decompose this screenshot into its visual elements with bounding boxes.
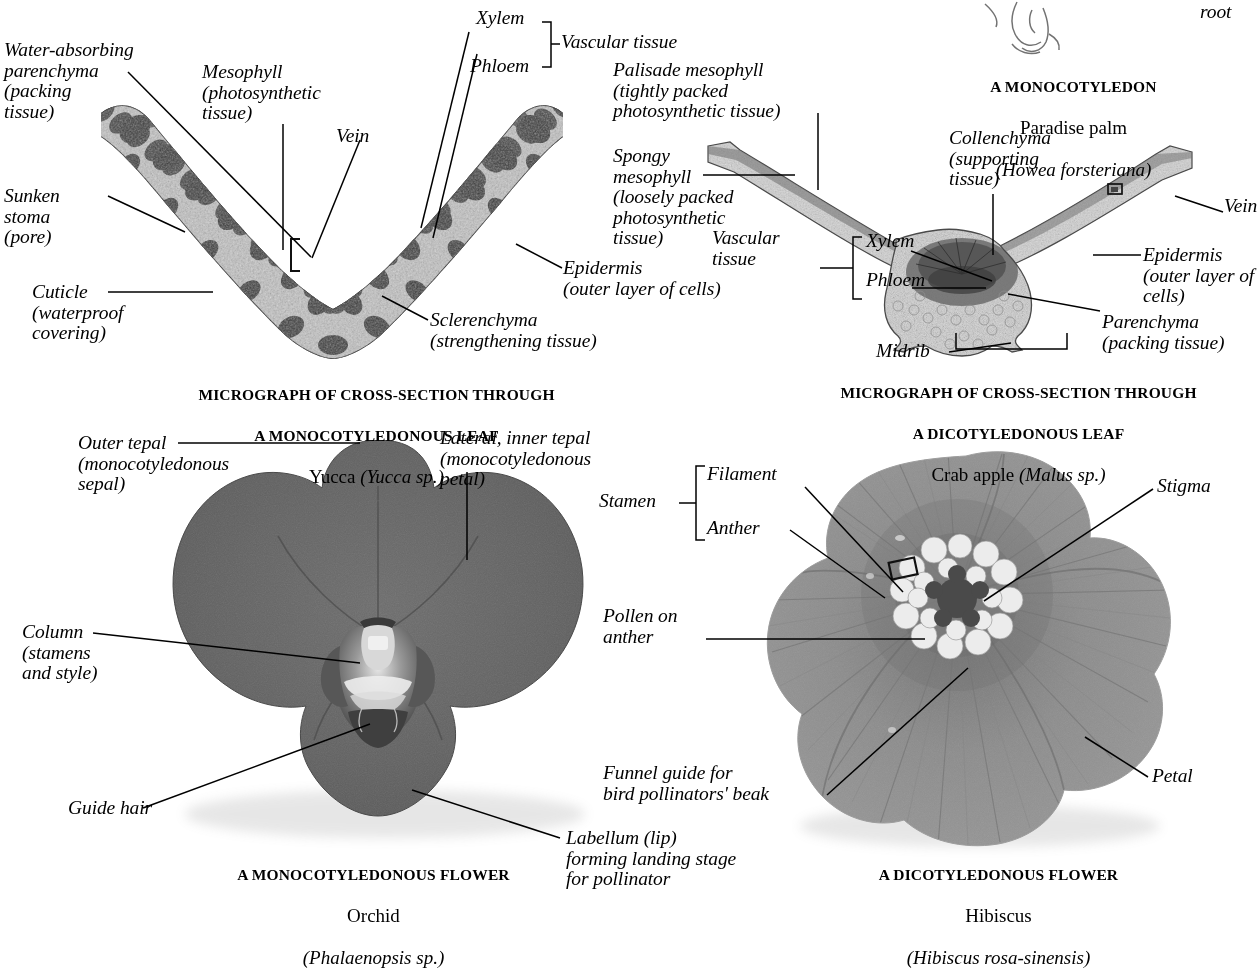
caption-line1: A MONOCOTYLEDONOUS FLOWER [237,866,509,883]
dicotyledonous-flower-photo [752,450,1182,860]
label-cuticle: Cuticle (waterproof covering) [32,282,123,344]
label-parenchyma-dicot: Parenchyma (packing tissue) [1102,312,1224,353]
label-root: root [1200,2,1231,23]
label-xylem-dicot: Xylem [866,231,914,252]
label-collenchyma: Collenchyma (supporting tissue) [949,128,1051,190]
caption-common-name: Yucca [309,466,360,487]
label-sunken-stoma: Sunken stoma (pore) [4,186,60,248]
label-lateral-inner-tepal: Lateral, inner tepal (monocotyledonous p… [440,428,591,490]
label-petal: Petal [1152,766,1193,787]
label-mesophyll: Mesophyll (photosynthetic tissue) [202,62,321,124]
label-vascular-tissue-dicot: Vascular tissue [712,228,779,269]
label-stigma: Stigma [1157,476,1211,497]
caption-common-name: Crab apple [931,464,1019,485]
label-column: Column (stamens and style) [22,622,97,684]
label-water-absorbing-parenchyma: Water-absorbing parenchyma (packing tiss… [4,40,134,122]
label-vein-dicot: Vein [1224,196,1257,217]
caption-line1: MICROGRAPH OF CROSS-SECTION THROUGH [198,386,554,403]
label-guide-hair: Guide hair [68,798,152,819]
bracket-stamen [696,466,705,540]
label-sclerenchyma: Sclerenchyma (strengthening tissue) [430,310,597,351]
caption-line2: A DICOTYLEDONOUS LEAF [913,425,1125,442]
label-phloem: Phloem [470,56,529,77]
caption-line1: A DICOTYLEDONOUS FLOWER [879,866,1118,883]
label-midrib: Midrib [876,341,930,362]
label-epidermis-mono: Epidermis (outer layer of cells) [563,258,721,299]
caption-scientific-name: (Hibiscus rosa-sinensis) [907,947,1091,968]
label-vascular-tissue-mono: Vascular tissue [561,32,677,53]
bracket-vascular-tissue-mono [542,22,551,67]
label-palisade-mesophyll: Palisade mesophyll (tightly packed photo… [613,60,780,122]
label-filament: Filament [707,464,777,485]
caption-line1: MICROGRAPH OF CROSS-SECTION THROUGH [840,384,1196,401]
label-xylem: Xylem [476,8,524,29]
label-outer-tepal: Outer tepal (monocotyledonous sepal) [78,433,229,495]
caption-scientific-name: (Yucca sp.) [360,466,444,487]
caption-scientific-name: (Phalaenopsis sp.) [303,947,444,968]
label-pollen-on-anther: Pollen on anther [603,606,677,647]
caption-dicot-flower: A DICOTYLEDONOUS FLOWER Hibiscus (Hibisc… [790,844,1190,972]
heading-line1: A MONOCOTYLEDON [990,78,1156,95]
label-epidermis-dicot: Epidermis (outer layer of cells) [1143,245,1254,307]
caption-monocot-flower: A MONOCOTYLEDONOUS FLOWER Orchid (Phalae… [165,844,565,972]
label-stamen: Stamen [599,491,656,512]
label-phloem-dicot: Phloem [866,270,925,291]
label-funnel-guide: Funnel guide for bird pollinators' beak [603,763,769,804]
caption-scientific-name: (Malus sp.) [1019,464,1106,485]
label-vein: Vein [336,126,369,147]
caption-common-name: Hibiscus [965,905,1032,926]
caption-common-name: Orchid [347,905,400,926]
label-anther: Anther [707,518,759,539]
label-labellum: Labellum (lip) forming landing stage for… [566,828,736,890]
